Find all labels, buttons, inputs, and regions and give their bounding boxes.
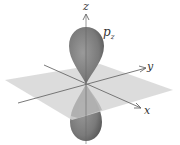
orbital-label: pz bbox=[103, 26, 114, 41]
orbital-label-subscript: z bbox=[111, 33, 115, 41]
orbital-label-p: p bbox=[103, 25, 111, 39]
pz-orbital-diagram bbox=[0, 0, 180, 145]
z-axis-label: z bbox=[83, 1, 89, 12]
x-axis-label: x bbox=[144, 105, 150, 116]
y-axis-label: y bbox=[147, 61, 153, 72]
